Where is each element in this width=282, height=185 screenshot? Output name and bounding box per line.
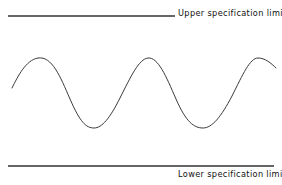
process-variation-wave: [12, 58, 276, 128]
spec-limits-chart: [0, 0, 282, 185]
lower-specification-limit-label: Lower specification limit: [178, 170, 282, 178]
upper-specification-limit-label: Upper specification limit: [178, 9, 282, 17]
spec-limits-diagram: Upper specification limit Lower specific…: [0, 0, 282, 185]
